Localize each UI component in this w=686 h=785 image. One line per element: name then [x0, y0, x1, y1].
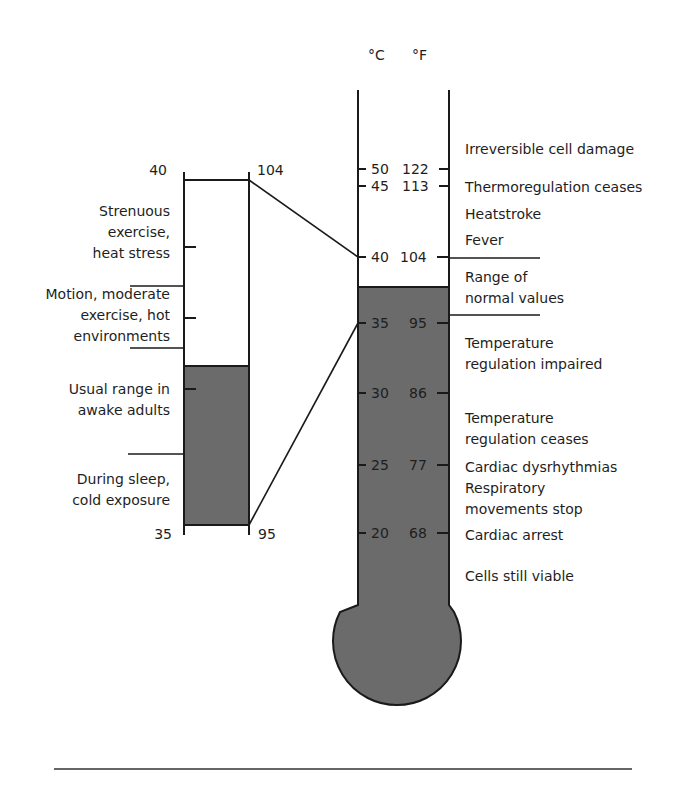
celsius-unit-label: °C [368, 47, 385, 63]
svg-text:95: 95 [409, 315, 427, 331]
svg-text:68: 68 [409, 525, 427, 541]
mercury-fill [333, 287, 461, 705]
svg-text:40: 40 [371, 249, 389, 265]
connector-lower [249, 323, 358, 525]
svg-text:environments: environments [74, 328, 170, 344]
main-thermometer: °C °F 50 122 45 113 40 104 35 95 3 [333, 47, 642, 705]
svg-text:35: 35 [371, 315, 389, 331]
annotation-irreversible-cell-damage: Irreversible cell damage [465, 141, 634, 157]
annotation-cardiac-arrest: Cardiac arrest [465, 527, 564, 543]
annotation-regulation-ceases-1: Temperature [464, 410, 554, 426]
annotation-fever: Fever [465, 232, 504, 248]
main-annotations: Irreversible cell damage Thermoregulatio… [464, 141, 642, 584]
svg-text:Motion, moderate: Motion, moderate [45, 286, 170, 302]
svg-text:Strenuous: Strenuous [99, 203, 170, 219]
svg-text:Usual range in: Usual range in [69, 381, 170, 397]
svg-text:25: 25 [371, 457, 389, 473]
svg-text:77: 77 [409, 457, 427, 473]
svg-text:cold exposure: cold exposure [72, 492, 170, 508]
svg-text:exercise, hot: exercise, hot [80, 307, 170, 323]
range-annotations: Strenuous exercise, heat stress Motion, … [45, 203, 170, 508]
annotation-regulation-ceases-2: regulation ceases [465, 431, 589, 447]
annotation-regulation-impaired-2: regulation impaired [465, 356, 602, 372]
svg-text:113: 113 [402, 178, 429, 194]
svg-text:45: 45 [371, 178, 389, 194]
svg-text:86: 86 [409, 385, 427, 401]
svg-text:50: 50 [371, 161, 389, 177]
scale-bottom-celsius: 35 [154, 526, 172, 542]
svg-text:heat stress: heat stress [93, 245, 170, 261]
annotation-heatstroke: Heatstroke [465, 206, 541, 222]
scale-bottom-fahrenheit: 95 [258, 526, 276, 542]
svg-text:122: 122 [402, 161, 429, 177]
svg-text:20: 20 [371, 525, 389, 541]
annotation-regulation-impaired-1: Temperature [464, 335, 554, 351]
annotation-respiratory-1: Respiratory [465, 480, 545, 496]
scale-top-fahrenheit: 104 [257, 162, 284, 178]
svg-text:awake adults: awake adults [78, 402, 170, 418]
connector-upper [249, 180, 358, 257]
fahrenheit-unit-label: °F [412, 47, 427, 63]
svg-text:104: 104 [400, 249, 427, 265]
scale-top-celsius: 40 [149, 162, 167, 178]
annotation-thermoregulation-ceases: Thermoregulation ceases [464, 179, 642, 195]
annotation-cells-still-viable: Cells still viable [465, 568, 574, 584]
annotation-range-normal-2: normal values [465, 290, 564, 306]
svg-text:During sleep,: During sleep, [77, 471, 170, 487]
annotation-respiratory-2: movements stop [465, 501, 583, 517]
svg-text:exercise,: exercise, [108, 224, 170, 240]
body-temperature-diagram: °C °F 50 122 45 113 40 104 35 95 3 [0, 0, 686, 785]
annotation-range-normal-1: Range of [465, 269, 528, 285]
normal-range-scale: 40 104 35 95 Strenuous exercise, heat st… [45, 162, 283, 542]
annotation-cardiac-dysrhythmias: Cardiac dysrhythmias [465, 459, 617, 475]
svg-text:30: 30 [371, 385, 389, 401]
